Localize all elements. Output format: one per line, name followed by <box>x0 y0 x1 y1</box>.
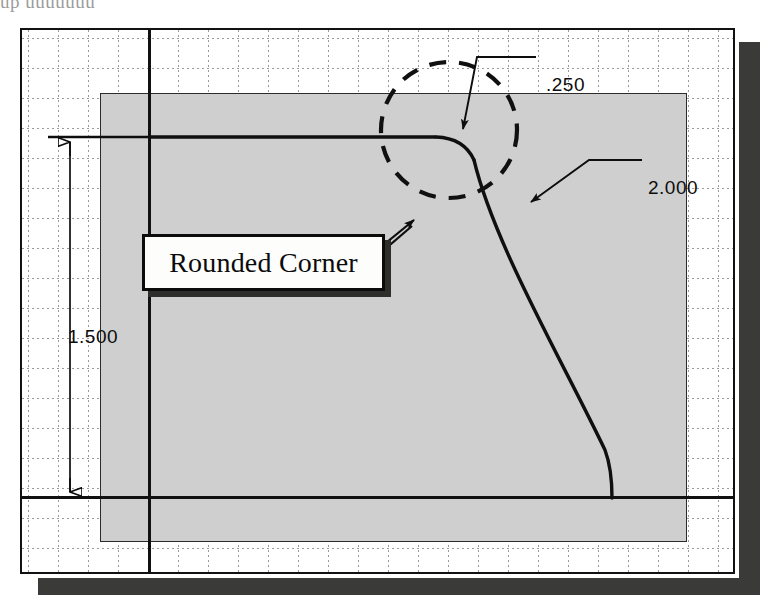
callout-rounded-corner-label: Rounded Corner <box>169 249 358 277</box>
dimension-label-height[interactable]: 1.500 <box>68 326 118 348</box>
geometry-overlay <box>22 30 733 572</box>
window-shadow-right <box>739 42 760 594</box>
part-profile-outline[interactable] <box>148 137 612 498</box>
dimension-height-1500[interactable] <box>48 137 148 492</box>
dimension-label-arc-radius[interactable]: 2.000 <box>648 177 698 199</box>
dimension-label-fillet-radius[interactable]: .250 <box>546 74 585 96</box>
drawing-canvas[interactable]: 1.500 .250 2.000 Rounded Corner <box>20 28 735 574</box>
leader-fillet-radius[interactable] <box>463 57 536 129</box>
callout-rounded-corner[interactable]: Rounded Corner <box>142 234 385 291</box>
scanned-page-header-text: up uuuuuuu <box>0 0 420 13</box>
leader-arc-radius[interactable] <box>531 160 642 202</box>
window-shadow-bottom <box>38 578 760 595</box>
detail-highlight-circle[interactable] <box>381 62 517 198</box>
